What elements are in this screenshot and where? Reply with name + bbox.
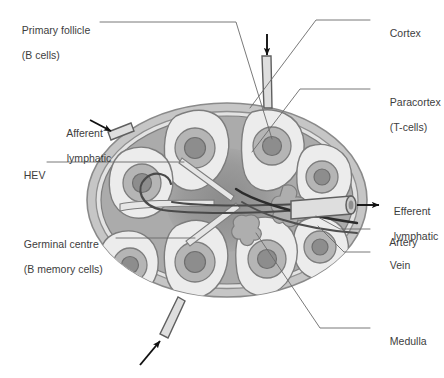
label-germinal-centre: Germinal centre (B memory cells) [12,225,103,288]
label-paracortex-line2: (T-cells) [390,121,428,133]
germinal-centre [312,239,328,255]
germinal-centre [185,252,206,273]
label-afferent-lymphatic: Afferent lymphatic [55,114,111,177]
label-medulla-line1: Medulla [390,335,427,347]
label-vein: Vein [378,246,410,284]
label-cortex: Cortex [378,14,421,52]
label-vein-line1: Vein [390,259,411,271]
label-hev-line1: HEV [24,169,46,181]
label-primary-follicle: Primary follicle (B cells) [10,11,90,74]
lymph-node-body [87,56,367,338]
lymph-node-diagram: Primary follicle (B cells) Afferent lymp… [0,0,444,378]
label-afferent-lymphatic-line1: Afferent [66,127,103,139]
germinal-centre [185,138,206,159]
germinal-centre [122,257,139,274]
label-germinal-centre-line2: (B memory cells) [24,263,103,275]
label-primary-follicle-line2: (B cells) [22,49,60,61]
label-germinal-centre-line1: Germinal centre [24,238,99,250]
label-efferent-lymphatic-line1: Efferent [394,205,431,217]
afferent-arrow-bottom [140,341,160,365]
label-paracortex-line1: Paracortex [390,96,441,108]
label-paracortex: Paracortex (T-cells) [378,83,441,146]
follicle-lobe [99,231,158,298]
label-hev: HEV [12,156,45,194]
label-cortex-line1: Cortex [390,27,421,39]
germinal-centre [314,169,330,185]
label-primary-follicle-line1: Primary follicle [22,24,91,36]
label-afferent-lymphatic-line2: lymphatic [67,152,112,164]
label-medulla: Medulla [378,322,427,360]
